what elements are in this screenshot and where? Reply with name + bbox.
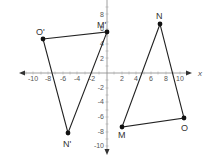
y-tick-label: -10 (94, 142, 104, 149)
x-tick-label: -8 (45, 75, 51, 82)
point-o (182, 116, 187, 121)
x-axis-left-arrow-icon (19, 71, 25, 76)
y-tick-label: 2 (100, 55, 104, 62)
point-n-prime (66, 131, 71, 136)
y-tick-label: -8 (98, 128, 104, 135)
label-n: N (156, 11, 163, 21)
label-m-prime: M' (97, 20, 106, 30)
x-tick-label: -4 (74, 75, 80, 82)
x-tick-label: 6 (149, 75, 153, 82)
label-o: O (181, 123, 188, 133)
y-tick-label: -4 (98, 98, 104, 105)
y-tick-label: -6 (98, 113, 104, 120)
x-axis-label: x (197, 69, 203, 78)
y-tick-label: 8 (100, 11, 104, 18)
point-o-prime (41, 37, 46, 42)
y-tick-label: -2 (98, 84, 104, 91)
point-m-prime (105, 30, 110, 35)
y-axis-down-arrow-icon (105, 149, 110, 155)
x-tick-label: -10 (28, 75, 38, 82)
x-tick-label: -6 (60, 75, 66, 82)
point-m (120, 125, 125, 130)
point-n (158, 22, 163, 27)
x-tick-label: 10 (176, 75, 184, 82)
label-o-prime: O' (36, 27, 45, 37)
label-n-prime: N' (63, 139, 71, 149)
x-axis: x -10 -8 -6 -4 -2 2 4 6 8 10 (19, 69, 203, 82)
x-tick-label: 8 (164, 75, 168, 82)
x-axis-right-arrow-icon (186, 71, 192, 76)
x-tick-label: 4 (134, 75, 138, 82)
coordinate-plane: x -10 -8 -6 -4 -2 2 4 6 8 10 (0, 0, 209, 157)
label-m: M (118, 130, 126, 140)
x-tick-label: 2 (120, 75, 124, 82)
